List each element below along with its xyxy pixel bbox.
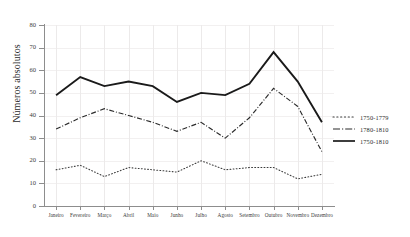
legend-item-1750-1810[interactable]: 1750-1810: [332, 135, 389, 147]
chart-legend: 1750-1779 1780-1810 1750-1810: [332, 111, 389, 147]
line-chart: Números absolutos 01020304050607080 Jane…: [0, 0, 410, 237]
legend-swatch-solid-icon: [332, 137, 356, 145]
legend-swatch-dashdot-icon: [332, 125, 356, 133]
series-line-1750-1810: [56, 52, 322, 122]
legend-label: 1750-1779: [360, 114, 389, 121]
legend-item-1750-1779[interactable]: 1750-1779: [332, 111, 389, 123]
legend-swatch-dotted-icon: [332, 113, 356, 121]
legend-label: 1750-1810: [360, 138, 389, 145]
legend-item-1780-1810[interactable]: 1780-1810: [332, 123, 389, 135]
series-line-1750-1779: [56, 161, 322, 179]
legend-label: 1780-1810: [360, 126, 389, 133]
